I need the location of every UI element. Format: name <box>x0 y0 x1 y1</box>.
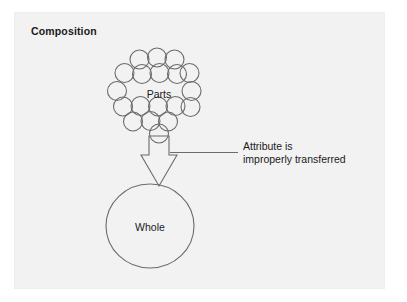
part-circle <box>165 50 184 69</box>
parts-label: Parts <box>133 88 185 100</box>
part-circle <box>159 112 178 131</box>
part-circle <box>124 112 143 131</box>
part-circle <box>133 65 152 84</box>
part-circle <box>180 64 199 83</box>
part-circle <box>141 112 160 131</box>
annotation-line-1: Attribute is <box>243 140 346 153</box>
part-circle <box>150 124 169 143</box>
composition-diagram-graphics <box>0 0 407 302</box>
part-circle <box>130 50 149 69</box>
annotation-line-2: improperly transferred <box>243 153 346 166</box>
diagram-canvas: Composition Parts Whole Attribute is imp… <box>0 0 407 302</box>
part-circle <box>115 64 134 83</box>
whole-label: Whole <box>120 221 180 233</box>
part-circle <box>108 82 127 101</box>
annotation-text: Attribute is improperly transferred <box>243 140 346 165</box>
